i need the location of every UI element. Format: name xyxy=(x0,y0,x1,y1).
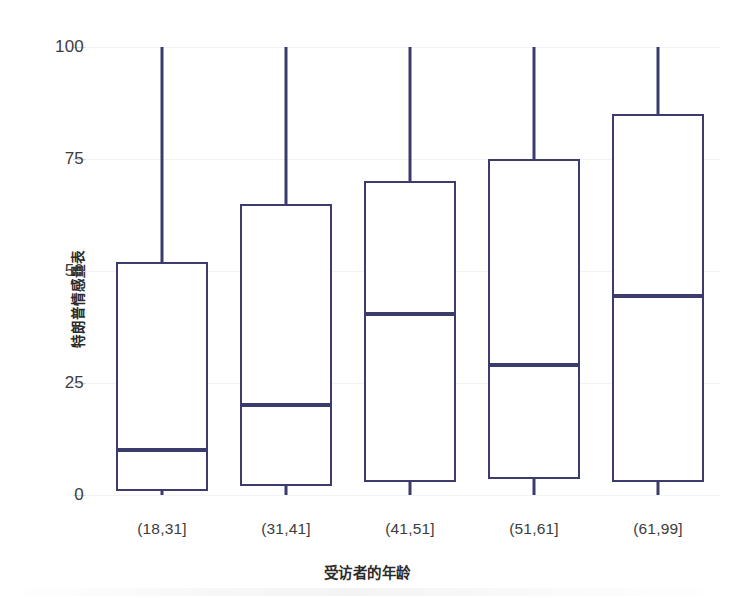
scan-noise-band xyxy=(0,588,734,596)
lower-whisker xyxy=(533,479,536,495)
upper-whisker xyxy=(161,47,164,262)
boxplot-chart: 特朗普情感量表 0255075100 (18,31](31,41](41,51]… xyxy=(0,0,734,598)
x-tick-label: (18,31] xyxy=(137,520,187,538)
plot-area: 0255075100 xyxy=(100,47,720,495)
x-tick-label: (41,51] xyxy=(385,520,435,538)
upper-whisker xyxy=(285,47,288,204)
y-tick-label: 100 xyxy=(55,37,84,57)
upper-whisker xyxy=(533,47,536,159)
median-line xyxy=(364,312,456,316)
gridline xyxy=(87,47,720,48)
box-iqr-rect[interactable] xyxy=(488,159,580,479)
upper-whisker xyxy=(657,47,660,114)
y-tick-label: 50 xyxy=(65,261,84,281)
x-tick-label: (61,99] xyxy=(633,520,683,538)
median-line xyxy=(488,363,580,367)
y-tick-label: 75 xyxy=(65,149,84,169)
x-axis-title: 受访者的年龄 xyxy=(0,561,734,582)
median-line xyxy=(116,448,208,452)
y-tick-label: 25 xyxy=(65,373,84,393)
box-iqr-rect[interactable] xyxy=(364,181,456,481)
upper-whisker xyxy=(409,47,412,181)
median-line xyxy=(612,294,704,298)
y-tick-label: 0 xyxy=(74,485,84,505)
box-iqr-rect[interactable] xyxy=(240,204,332,486)
lower-whisker xyxy=(285,486,288,495)
box-iqr-rect[interactable] xyxy=(116,262,208,490)
gridline xyxy=(87,495,720,496)
median-line xyxy=(240,403,332,407)
lower-whisker xyxy=(409,482,412,495)
x-tick-label: (51,61] xyxy=(509,520,559,538)
box-iqr-rect[interactable] xyxy=(612,114,704,481)
lower-whisker xyxy=(657,482,660,495)
x-tick-label: (31,41] xyxy=(261,520,311,538)
lower-whisker xyxy=(161,491,164,495)
